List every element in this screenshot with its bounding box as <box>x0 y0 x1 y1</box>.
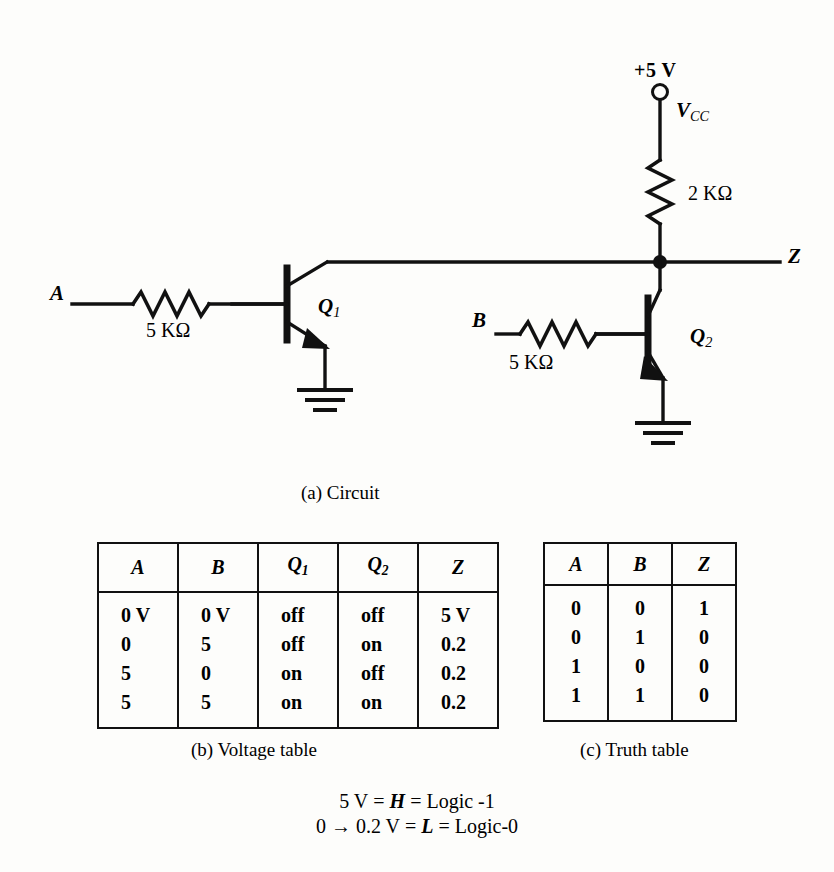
table-row: 0 5 off on 0.2 <box>98 630 498 659</box>
voltage-cell-a: 5 <box>98 659 178 688</box>
transistor-q2-label: Q2 <box>690 326 712 349</box>
input-a-label: A <box>50 283 64 304</box>
table-row: 0 1 0 <box>544 623 736 652</box>
pullup-resistor-symbol <box>648 160 672 224</box>
truth-cell-a: 0 <box>544 585 608 623</box>
cell-text: on <box>275 659 321 688</box>
vcc-supply-label: +5 V <box>634 60 676 80</box>
voltage-header-q2-subscript: 2 <box>382 563 389 578</box>
voltage-header-z-letter: Z <box>452 556 464 578</box>
vcc-terminal-circle <box>653 85 668 100</box>
input-b-label: B <box>472 310 486 331</box>
cell-text: 0 <box>195 659 241 688</box>
legend-low-eq2: = <box>434 815 455 837</box>
truth-cell-b: 0 <box>608 652 672 681</box>
voltage-cell-q2: on <box>338 630 418 659</box>
cell-text: off <box>355 601 401 630</box>
voltage-cell-z: 0.2 <box>418 659 498 688</box>
truth-cell-z: 0 <box>672 681 736 721</box>
circuit-schematic <box>0 0 834 470</box>
legend-high-logic: Logic -1 <box>426 790 494 812</box>
truth-cell-a: 1 <box>544 681 608 721</box>
transistor-q1-label: Q1 <box>318 296 340 319</box>
voltage-table-header-q2: Q2 <box>338 543 418 592</box>
cell-text: 0.2 <box>435 630 481 659</box>
voltage-cell-a: 0 <box>98 630 178 659</box>
voltage-cell-q1: on <box>258 688 338 728</box>
truth-table-header-b: B <box>608 543 672 585</box>
voltage-cell-a: 5 <box>98 688 178 728</box>
legend-high-eq2: = <box>405 790 426 812</box>
voltage-cell-q2: on <box>338 688 418 728</box>
voltage-header-q1-subscript: 1 <box>302 563 309 578</box>
input-b-resistor-label: 5 KΩ <box>509 352 553 372</box>
cell-text: 0 <box>115 630 161 659</box>
q1-letter: Q <box>318 294 333 318</box>
voltage-table-header-row: A B Q1 Q2 Z <box>98 543 498 592</box>
truth-cell-a: 1 <box>544 652 608 681</box>
voltage-cell-q2: off <box>338 592 418 630</box>
truth-table: A B Z 0 0 1 0 1 0 1 0 0 1 1 <box>543 542 737 722</box>
vcc-symbol-letter: V <box>676 98 690 122</box>
cell-text: 0 V <box>195 601 241 630</box>
pullup-resistor-label: 2 KΩ <box>688 183 732 203</box>
cell-text: 0 V <box>115 601 161 630</box>
caption-circuit: (a) Circuit <box>301 482 380 504</box>
cell-text: on <box>275 688 321 717</box>
voltage-cell-q2: off <box>338 659 418 688</box>
truth-cell-z: 1 <box>672 585 736 623</box>
cell-text: 5 <box>115 659 161 688</box>
logic-level-legend: 5 V=H=Logic -1 0 → 0.2 V=L=Logic-0 <box>0 789 834 839</box>
voltage-table-header-b: B <box>178 543 258 592</box>
output-z-label: Z <box>788 246 801 267</box>
truth-cell-b: 1 <box>608 681 672 721</box>
legend-high-voltage: 5 V <box>339 790 368 812</box>
voltage-header-b-letter: B <box>211 556 224 578</box>
voltage-table: A B Q1 Q2 Z 0 V 0 V off off 5 V 0 5 off … <box>97 542 499 729</box>
voltage-cell-b: 0 V <box>178 592 258 630</box>
input-a-resistor-symbol <box>133 292 209 316</box>
voltage-cell-z: 5 V <box>418 592 498 630</box>
truth-cell-z: 0 <box>672 652 736 681</box>
cell-text: on <box>355 630 401 659</box>
voltage-cell-q1: on <box>258 659 338 688</box>
voltage-table-header-a: A <box>98 543 178 592</box>
table-row: 1 0 0 <box>544 652 736 681</box>
voltage-cell-b: 0 <box>178 659 258 688</box>
legend-low-eq1: = <box>400 815 421 837</box>
truth-table-header-a: A <box>544 543 608 585</box>
q1-subscript: 1 <box>333 304 340 320</box>
legend-high-eq1: = <box>368 790 389 812</box>
table-row: 0 V 0 V off off 5 V <box>98 592 498 630</box>
truth-cell-z: 0 <box>672 623 736 652</box>
legend-line-high: 5 V=H=Logic -1 <box>0 789 834 814</box>
figure-page: +5 V VCC 2 KΩ Z A 5 KΩ Q1 B 5 KΩ Q2 (a) … <box>0 0 834 872</box>
voltage-cell-z: 0.2 <box>418 630 498 659</box>
voltage-cell-q1: off <box>258 630 338 659</box>
truth-table-header-z: Z <box>672 543 736 585</box>
q1-collector-lead <box>287 262 327 286</box>
cell-text: 5 <box>195 688 241 717</box>
legend-low-voltage: 0 → 0.2 V <box>316 815 400 837</box>
legend-low-logic: Logic-0 <box>455 815 518 837</box>
cell-text: off <box>275 601 321 630</box>
voltage-header-q1-letter: Q <box>287 553 301 575</box>
caption-truth-table: (c) Truth table <box>580 739 689 761</box>
voltage-cell-a: 0 V <box>98 592 178 630</box>
caption-voltage-table: (b) Voltage table <box>191 739 317 761</box>
voltage-cell-z: 0.2 <box>418 688 498 728</box>
voltage-cell-q1: off <box>258 592 338 630</box>
q2-subscript: 2 <box>705 334 712 350</box>
cell-text: on <box>355 688 401 717</box>
voltage-header-a-letter: A <box>131 556 144 578</box>
cell-text: 0.2 <box>435 688 481 717</box>
cell-text: 5 <box>115 688 161 717</box>
table-row: 5 0 on off 0.2 <box>98 659 498 688</box>
cell-text: off <box>275 630 321 659</box>
voltage-cell-b: 5 <box>178 630 258 659</box>
cell-text: 5 V <box>435 601 481 630</box>
vcc-symbol-label: VCC <box>676 100 709 123</box>
legend-low-level: L <box>421 815 433 837</box>
q2-letter: Q <box>690 324 705 348</box>
truth-table-header-row: A B Z <box>544 543 736 585</box>
